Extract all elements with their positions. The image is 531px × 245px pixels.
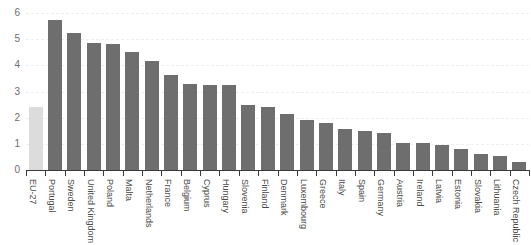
bar[interactable] (106, 44, 120, 170)
x-tick-label: Latvia (432, 179, 446, 203)
x-tick (103, 170, 104, 176)
bar[interactable] (261, 107, 275, 170)
bar[interactable] (183, 84, 197, 170)
x-tick-label: Italy (335, 179, 349, 196)
x-tick (142, 170, 143, 176)
x-tick (297, 170, 298, 176)
x-tick-label: Portugal (45, 179, 59, 213)
x-tick (490, 170, 491, 176)
bar[interactable] (454, 149, 468, 170)
x-tick (394, 170, 395, 176)
x-tick-label: France (161, 179, 175, 207)
x-tick-label: Lithuania (490, 179, 504, 216)
x-tick (432, 170, 433, 176)
x-tick-label: Sweden (64, 179, 78, 212)
bar[interactable] (435, 145, 449, 170)
bar[interactable] (241, 105, 255, 170)
x-tick (123, 170, 124, 176)
y-tick-label: 6 (0, 8, 20, 18)
bar[interactable] (164, 75, 178, 171)
x-tick (219, 170, 220, 176)
bar[interactable] (222, 85, 236, 170)
x-tick (316, 170, 317, 176)
x-tick (529, 170, 530, 176)
y-tick-label: 2 (0, 113, 20, 123)
x-tick-label: Malta (122, 179, 136, 201)
x-tick-label: Finland (258, 179, 272, 209)
bar[interactable] (377, 133, 391, 170)
bar[interactable] (67, 33, 81, 170)
x-tick (278, 170, 279, 176)
plot-area (26, 13, 529, 170)
bar[interactable] (512, 162, 526, 170)
x-tick-label: Greece (316, 179, 330, 209)
bar[interactable] (203, 85, 217, 170)
x-tick-label: EU-27 (26, 179, 40, 205)
x-tick-label: United Kingdom (84, 179, 98, 243)
x-tick-label: Czech Republic (509, 179, 523, 242)
x-tick (200, 170, 201, 176)
bar-chart: 0123456 EU-27PortugalSwedenUnited Kingdo… (0, 0, 531, 245)
x-tick (84, 170, 85, 176)
bar[interactable] (125, 52, 139, 170)
bar[interactable] (87, 43, 101, 170)
x-tick (181, 170, 182, 176)
x-tick-label: Spain (355, 179, 369, 202)
bar[interactable] (300, 120, 314, 170)
x-tick (374, 170, 375, 176)
x-tick (355, 170, 356, 176)
x-tick-label: Poland (103, 179, 117, 207)
x-tick (26, 170, 27, 176)
bar[interactable] (48, 20, 62, 170)
x-tick-label: Luxembourg (297, 179, 311, 229)
bar[interactable] (280, 114, 294, 170)
x-tick (471, 170, 472, 176)
x-tick-label: Belgium (180, 179, 194, 212)
x-tick (239, 170, 240, 176)
x-tick (336, 170, 337, 176)
x-tick-label: Slovenia (238, 179, 252, 214)
x-tick-label: Austria (393, 179, 407, 207)
x-tick-label: Hungary (219, 179, 233, 213)
x-tick (452, 170, 453, 176)
bar[interactable] (358, 131, 372, 170)
x-tick (45, 170, 46, 176)
y-tick-label: 5 (0, 34, 20, 44)
x-tick-label: Germany (374, 179, 388, 216)
x-tick (65, 170, 66, 176)
y-tick-label: 3 (0, 87, 20, 97)
bar[interactable] (493, 156, 507, 170)
bar[interactable] (319, 123, 333, 170)
x-tick (161, 170, 162, 176)
bar[interactable] (396, 143, 410, 170)
x-tick-label: Ireland (413, 179, 427, 207)
y-tick-label: 0 (0, 165, 20, 175)
x-tick-label: Estonia (451, 179, 465, 209)
x-tick-label: Slovakia (471, 179, 485, 213)
y-tick-label: 1 (0, 139, 20, 149)
x-tick (510, 170, 511, 176)
x-tick (413, 170, 414, 176)
bar[interactable] (474, 154, 488, 170)
x-tick-label: Denmark (277, 179, 291, 216)
bar[interactable] (416, 143, 430, 170)
y-tick-label: 4 (0, 60, 20, 70)
x-tick-label: Cyprus (200, 179, 214, 208)
bar[interactable] (338, 129, 352, 170)
bar[interactable] (29, 107, 43, 170)
x-tick-label: Netherlands (142, 179, 156, 228)
x-tick (258, 170, 259, 176)
bar[interactable] (145, 61, 159, 170)
